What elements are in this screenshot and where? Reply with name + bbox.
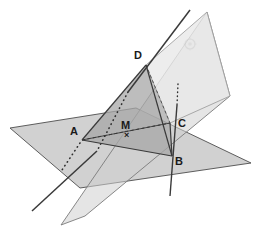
label-point-c: C: [178, 118, 186, 129]
label-point-b: B: [175, 156, 183, 167]
geometry-canvas: [0, 0, 260, 226]
geometry-figure: A B C D M ×: [0, 0, 260, 226]
label-point-a: A: [70, 126, 78, 137]
midpoint-cross-marker: ×: [124, 131, 129, 140]
label-point-d: D: [134, 50, 142, 61]
